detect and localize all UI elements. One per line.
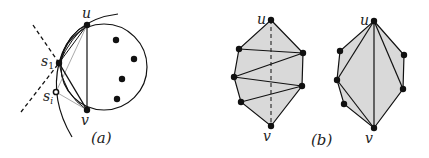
vertex [238,99,244,105]
caption-a: (a) [91,129,112,147]
label-v: v [365,130,373,146]
vertex [341,101,347,107]
interior-dot [131,56,137,62]
interior-dot [113,37,119,43]
label-si: si [43,88,53,106]
circle [61,24,147,110]
point-s1 [56,60,62,66]
label-u: u [82,5,91,21]
label-v: v [81,112,89,128]
panel-b-left: u v [231,11,306,144]
point-u [371,18,377,24]
panel-b-right: u v (b) [311,12,407,149]
arc-3 [59,25,87,63]
vertex [401,52,407,58]
label-s1: s1 [41,53,54,71]
panel-a: u s1 si v (a) [21,5,147,147]
point-u [84,22,90,28]
vertex [334,77,340,83]
vertex [337,48,343,54]
interior-dot [114,96,120,102]
vertex [300,50,306,56]
label-v: v [263,128,271,144]
interior-dot [119,76,125,82]
point-si [53,89,58,94]
vertex [299,83,305,89]
label-u: u [360,12,369,28]
vertex [231,74,237,80]
line-s1-v [59,63,87,110]
polygon-right [337,21,404,128]
vertex [236,46,242,52]
vertex [400,86,406,92]
figure-canvas: u s1 si v (a) u v u v (b) [0,0,429,158]
label-u: u [257,11,266,27]
point-u [268,17,274,23]
caption-b: (b) [311,131,332,149]
